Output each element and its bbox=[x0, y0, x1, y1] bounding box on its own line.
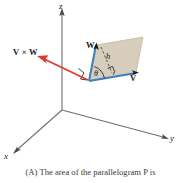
cross-product-figure: z y x W V V × W θ h (A) The area of the … bbox=[0, 0, 181, 183]
x-axis bbox=[18, 110, 62, 149]
vector-diagram bbox=[0, 0, 181, 183]
z-axis-label: z bbox=[59, 2, 63, 11]
vector-w-label: W bbox=[86, 41, 95, 50]
y-axis bbox=[62, 110, 163, 137]
y-axis-label: y bbox=[170, 134, 174, 143]
vector-v-label: V bbox=[130, 74, 136, 83]
x-axis-label: x bbox=[4, 152, 8, 161]
figure-caption: (A) The area of the parallelogram P is bbox=[0, 168, 181, 183]
cross-product-label: V × W bbox=[13, 48, 38, 57]
cross-product-arrow-shaft bbox=[44, 59, 88, 80]
theta-label: θ bbox=[94, 70, 98, 78]
height-label: h bbox=[106, 52, 110, 61]
